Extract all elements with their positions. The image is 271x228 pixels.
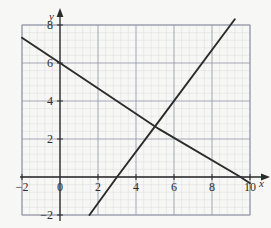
y-axis-label: y bbox=[48, 10, 54, 22]
y-tick-label: 2 bbox=[47, 132, 53, 146]
x-tick-label: 6 bbox=[171, 180, 177, 194]
x-tick-label: 8 bbox=[209, 180, 215, 194]
x-tick-label: −2 bbox=[16, 180, 29, 194]
x-tick-label: 10 bbox=[244, 180, 256, 194]
coordinate-plane: −20246810−22468 x y bbox=[0, 0, 271, 228]
x-tick-label: 2 bbox=[95, 180, 101, 194]
x-tick-label: 4 bbox=[133, 180, 139, 194]
graph-figure: −20246810−22468 x y bbox=[0, 0, 271, 228]
y-tick-label: 6 bbox=[47, 56, 53, 70]
x-tick-label: 0 bbox=[57, 180, 63, 194]
y-tick-label: −2 bbox=[40, 208, 53, 222]
y-tick-label: 4 bbox=[47, 94, 53, 108]
x-axis-label: x bbox=[258, 177, 264, 189]
